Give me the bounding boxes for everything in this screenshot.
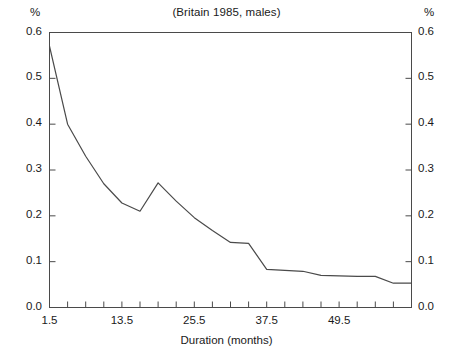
x-tick-label: 37.5 <box>245 314 289 326</box>
x-axis-ticks <box>50 302 412 308</box>
y-tick-label-left: 0.3 <box>12 162 42 174</box>
y-tick-label-left: 0.4 <box>12 116 42 128</box>
y-tick-label-right: 0.6 <box>418 25 450 37</box>
y-tick-label-left: 0.1 <box>12 254 42 266</box>
chart-title: (Britain 1985, males) <box>0 6 453 18</box>
y-tick-label-right: 0.4 <box>418 116 450 128</box>
plot-svg <box>49 32 412 308</box>
y-tick-label-right: 0.0 <box>418 300 450 312</box>
y-axis-ticks-left <box>50 78 56 261</box>
chart-figure: (Britain 1985, males) % % 0.00.10.20.30.… <box>0 0 453 361</box>
plot-area <box>49 32 412 308</box>
y-axis-unit-right: % <box>424 6 434 18</box>
x-tick-label: 49.5 <box>317 314 361 326</box>
plot-frame <box>50 33 412 308</box>
y-tick-label-left: 0.6 <box>12 25 42 37</box>
x-tick-label: 13.5 <box>100 314 144 326</box>
y-tick-label-right: 0.3 <box>418 162 450 174</box>
y-tick-label-left: 0.2 <box>12 208 42 220</box>
y-tick-label-right: 0.5 <box>418 70 450 82</box>
data-series-line <box>50 46 412 283</box>
y-tick-label-left: 0.5 <box>12 70 42 82</box>
x-tick-label: 1.5 <box>28 314 72 326</box>
y-tick-label-right: 0.2 <box>418 208 450 220</box>
y-tick-label-right: 0.1 <box>418 254 450 266</box>
x-axis-title: Duration (months) <box>0 334 453 346</box>
x-tick-label: 25.5 <box>172 314 216 326</box>
y-axis-unit-left: % <box>30 6 40 18</box>
y-axis-ticks-right <box>406 78 412 261</box>
y-tick-label-left: 0.0 <box>12 300 42 312</box>
